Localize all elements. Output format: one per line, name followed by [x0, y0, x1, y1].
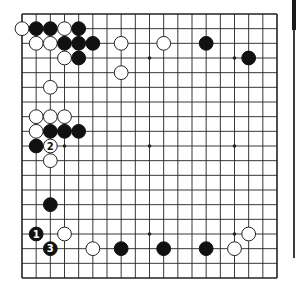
- white-stone: [58, 227, 72, 241]
- star-point: [233, 56, 237, 60]
- white-stone: [43, 36, 57, 50]
- white-stone: [114, 66, 128, 80]
- white-stone: 2: [43, 139, 57, 153]
- black-stone: [43, 124, 57, 138]
- black-stone: [72, 51, 86, 65]
- star-point: [148, 56, 152, 60]
- black-stone: [43, 198, 57, 212]
- black-stone: [86, 36, 100, 50]
- black-stone: [242, 51, 256, 65]
- white-stone: [114, 36, 128, 50]
- star-point: [233, 144, 237, 148]
- white-stone: [15, 22, 29, 36]
- white-stone: [86, 242, 100, 256]
- go-board: 213: [0, 0, 296, 297]
- black-stone: 1: [29, 227, 43, 241]
- black-stone: [199, 36, 213, 50]
- white-stone: [58, 51, 72, 65]
- white-stone: [29, 124, 43, 138]
- white-stone: [242, 227, 256, 241]
- black-stone: [157, 242, 171, 256]
- white-stone: [58, 110, 72, 124]
- star-point: [148, 144, 152, 148]
- white-stone: [43, 110, 57, 124]
- white-stone: [157, 36, 171, 50]
- white-stone: [29, 110, 43, 124]
- star-point: [63, 144, 67, 148]
- black-stone: [43, 22, 57, 36]
- white-stone: [228, 242, 242, 256]
- black-stone: [58, 124, 72, 138]
- white-stone: [43, 80, 57, 94]
- black-stone: [199, 242, 213, 256]
- black-stone: [29, 22, 43, 36]
- star-point: [233, 232, 237, 236]
- move-number-label: 2: [47, 141, 54, 152]
- white-stone: [29, 36, 43, 50]
- black-stone: [72, 22, 86, 36]
- black-stone: [29, 139, 43, 153]
- page-edge-mark: [292, 0, 296, 30]
- black-stone: [72, 124, 86, 138]
- page-edge-divider: [293, 0, 295, 258]
- move-number-label: 3: [47, 243, 54, 254]
- black-stone: [114, 242, 128, 256]
- black-stone: 3: [43, 242, 57, 256]
- move-number-label: 1: [33, 229, 40, 240]
- white-stone: [58, 22, 72, 36]
- star-point: [148, 232, 152, 236]
- white-stone: [43, 154, 57, 168]
- black-stone: [72, 36, 86, 50]
- black-stone: [58, 36, 72, 50]
